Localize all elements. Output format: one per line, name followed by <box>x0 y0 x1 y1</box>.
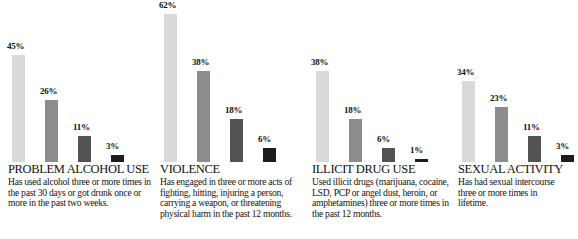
panel-title: VIOLENCE <box>160 163 310 176</box>
bar-violence-1: 38% <box>197 57 210 162</box>
bar-rect <box>528 136 541 162</box>
caption-illicit-drug-use: ILLICIT DRUG USE Used illicit drugs (mar… <box>312 163 457 219</box>
bar-rect <box>111 155 124 162</box>
chart-panel-illicit-drug-use: 38%18%6%1% ILLICIT DRUG USE Used illicit… <box>312 0 457 239</box>
bar-value-label: 23% <box>490 93 530 103</box>
bar-problem-alcohol-use-2: 11% <box>78 122 91 162</box>
bar-illicit-drug-use-0: 38% <box>316 57 329 162</box>
bars-problem-alcohol-use: 45%26%11%3% <box>8 0 154 162</box>
bar-problem-alcohol-use-0: 45% <box>12 41 25 162</box>
panel-title: PROBLEM ALCOHOL USE <box>8 163 154 176</box>
bar-sexual-activity-1: 23% <box>495 93 508 162</box>
caption-violence: VIOLENCE Has engaged in three or more ac… <box>160 163 310 219</box>
bar-rect <box>495 107 508 162</box>
panel-title: ILLICIT DRUG USE <box>312 163 457 176</box>
bars-sexual-activity: 34%23%11%3% <box>458 0 564 162</box>
bar-value-label: 6% <box>258 134 298 144</box>
bar-violence-2: 18% <box>230 105 243 162</box>
bar-value-label: 18% <box>225 105 265 115</box>
bar-sexual-activity-2: 11% <box>528 122 541 162</box>
bar-problem-alcohol-use-3: 3% <box>111 141 124 162</box>
panel-description: Has had sexual intercourse three or more… <box>458 177 564 209</box>
bar-rect <box>415 159 428 162</box>
bar-value-label: 18% <box>344 105 384 115</box>
bar-rect <box>561 155 574 162</box>
chart-panel-sexual-activity: 34%23%11%3% SEXUAL ACTIVITY Has had sexu… <box>458 0 564 239</box>
bar-value-label: 3% <box>106 141 146 151</box>
bar-rect <box>197 71 210 162</box>
bar-rect <box>164 14 177 162</box>
bar-rect <box>12 55 25 162</box>
caption-problem-alcohol-use: PROBLEM ALCOHOL USE Has used alcohol thr… <box>8 163 154 209</box>
bar-value-label: 3% <box>556 141 578 151</box>
bar-value-label: 26% <box>40 86 80 96</box>
bar-rect <box>45 100 58 162</box>
bar-value-label: 34% <box>457 67 497 77</box>
bar-value-label: 38% <box>311 57 351 67</box>
bar-value-label: 11% <box>73 122 113 132</box>
caption-sexual-activity: SEXUAL ACTIVITY Has had sexual intercour… <box>458 163 564 209</box>
bar-illicit-drug-use-1: 18% <box>349 105 362 162</box>
bar-rect <box>263 148 276 162</box>
bar-rect <box>382 148 395 162</box>
panel-title: SEXUAL ACTIVITY <box>458 163 564 176</box>
bar-rect <box>462 81 475 162</box>
bar-rect <box>316 71 329 162</box>
bars-illicit-drug-use: 38%18%6%1% <box>312 0 457 162</box>
bar-problem-alcohol-use-1: 26% <box>45 86 58 162</box>
bar-value-label: 38% <box>192 57 232 67</box>
bar-value-label: 11% <box>523 122 563 132</box>
bar-sexual-activity-3: 3% <box>561 141 574 162</box>
bar-violence-0: 62% <box>164 0 177 162</box>
bar-illicit-drug-use-2: 6% <box>382 134 395 162</box>
chart-panel-violence: 62%38%18%6% VIOLENCE Has engaged in thre… <box>160 0 310 239</box>
bar-rect <box>349 119 362 162</box>
bar-value-label: 6% <box>377 134 417 144</box>
bar-value-label: 45% <box>7 41 47 51</box>
panel-description: Has engaged in three or more acts of fig… <box>160 177 310 219</box>
panel-description: Used illicit drugs (marijuana, cocaine, … <box>312 177 457 219</box>
bars-violence: 62%38%18%6% <box>160 0 310 162</box>
bar-illicit-drug-use-3: 1% <box>415 145 428 162</box>
panel-description: Has used alcohol three or more times in … <box>8 177 154 209</box>
chart-panel-problem-alcohol-use: 45%26%11%3% PROBLEM ALCOHOL USE Has used… <box>8 0 154 239</box>
bar-violence-3: 6% <box>263 134 276 162</box>
bar-rect <box>230 119 243 162</box>
bar-rect <box>78 136 91 162</box>
bar-sexual-activity-0: 34% <box>462 67 475 162</box>
bar-value-label: 1% <box>410 145 450 155</box>
bar-value-label: 62% <box>159 0 199 10</box>
